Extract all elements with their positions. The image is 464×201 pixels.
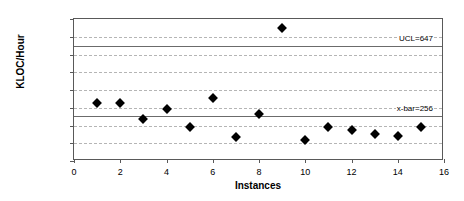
y-tick-mark (70, 90, 74, 91)
x-tick-mark (305, 159, 306, 163)
x-bar-label: x-bar=256 (396, 104, 434, 113)
x-tick-label: 16 (429, 167, 459, 177)
y-tick-mark (70, 108, 74, 109)
y-gridline (74, 37, 442, 38)
data-point (416, 122, 426, 132)
y-gridline (74, 72, 442, 73)
plot-area: 0.0100.0200.0300.0400.0500.0600.0700.080… (73, 18, 443, 160)
y-tick-mark (70, 126, 74, 127)
data-point (162, 104, 172, 114)
x-tick-label: 12 (337, 167, 367, 177)
data-point (323, 122, 333, 132)
x-axis-title: Instances (73, 180, 443, 191)
data-point (231, 132, 241, 142)
data-point (254, 109, 264, 119)
y-tick-mark (70, 37, 74, 38)
x-tick-label: 14 (383, 167, 413, 177)
x-tick-mark (398, 159, 399, 163)
data-point (393, 131, 403, 141)
data-point (185, 122, 195, 132)
data-point (208, 93, 218, 103)
data-point (347, 125, 357, 135)
x-tick-mark (352, 159, 353, 163)
x-tick-label: 0 (59, 167, 89, 177)
x-tick-label: 4 (152, 167, 182, 177)
control-chart: KLOC/Hour 0.0100.0200.0300.0400.0500.060… (0, 0, 464, 201)
data-point (370, 129, 380, 139)
y-tick-mark (70, 19, 74, 20)
x-tick-label: 10 (290, 167, 320, 177)
x-tick-mark (259, 159, 260, 163)
x-tick-label: 2 (105, 167, 135, 177)
ucl-label: UCL=647 (398, 34, 434, 43)
x-tick-mark (74, 159, 75, 163)
data-point (115, 98, 125, 108)
y-gridline (74, 143, 442, 144)
ucl-line (74, 46, 442, 47)
x-tick-label: 6 (198, 167, 228, 177)
x-tick-label: 8 (244, 167, 274, 177)
y-tick-mark (70, 55, 74, 56)
x-tick-mark (120, 159, 121, 163)
y-tick-mark (70, 72, 74, 73)
data-point (277, 23, 287, 33)
x-tick-mark (167, 159, 168, 163)
y-axis-title: KLOC/Hour (15, 12, 26, 112)
y-gridline (74, 55, 442, 56)
x-tick-mark (213, 159, 214, 163)
x-tick-mark (444, 159, 445, 163)
y-gridline (74, 126, 442, 127)
y-gridline (74, 90, 442, 91)
y-tick-mark (70, 143, 74, 144)
data-point (92, 98, 102, 108)
